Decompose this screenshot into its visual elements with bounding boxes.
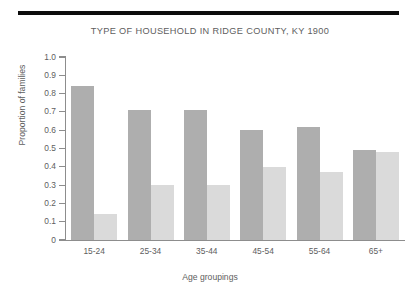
y-axis-tick: [59, 56, 65, 57]
y-axis-tick: [59, 203, 65, 204]
y-axis-tick: [59, 166, 65, 167]
bar-15-24-series-light: [94, 214, 117, 240]
y-axis-tick: [59, 148, 65, 149]
bar-35-44-series-dark: [184, 110, 207, 240]
chart-title: TYPE OF HOUSEHOLD IN RIDGE COUNTY, KY 19…: [0, 26, 420, 36]
bar-65plus-series-dark: [353, 150, 376, 240]
bar-55-64-series-dark: [297, 127, 320, 240]
y-axis-tick-label: 0.5: [0, 144, 56, 152]
y-axis-tick-label: 0.2: [0, 199, 56, 207]
y-axis-tick: [59, 93, 65, 94]
bar-25-34-series-light: [151, 185, 174, 240]
y-axis-tick-label: 0.9: [0, 71, 56, 79]
x-axis-line: [65, 240, 405, 241]
x-axis-tick-label: 45-54: [233, 246, 293, 256]
x-axis-tick-label: 25-34: [121, 246, 181, 256]
bar-25-34-series-dark: [128, 110, 151, 240]
y-axis-tick-label: 0.7: [0, 107, 56, 115]
y-axis-tick: [59, 239, 65, 240]
y-axis-tick-label: 0: [0, 236, 56, 244]
y-axis-tick: [59, 221, 65, 222]
y-axis-tick-label: 0.6: [0, 126, 56, 134]
x-axis-tick-label: 65+: [346, 246, 406, 256]
bar-35-44-series-light: [207, 185, 230, 240]
bar-55-64-series-light: [320, 172, 343, 240]
y-axis-tick-label: 1.0: [0, 53, 56, 61]
chart-figure: TYPE OF HOUSEHOLD IN RIDGE COUNTY, KY 19…: [0, 0, 420, 297]
y-axis-tick: [59, 75, 65, 76]
y-axis-tick-label: 0.3: [0, 181, 56, 189]
y-axis-tick: [59, 185, 65, 186]
x-axis-label: Age groupings: [0, 272, 420, 282]
x-axis-tick-label: 15-24: [64, 246, 124, 256]
bar-45-54-series-light: [263, 167, 286, 240]
bar-45-54-series-dark: [240, 130, 263, 240]
y-axis-tick: [59, 130, 65, 131]
y-axis-tick: [59, 111, 65, 112]
x-axis-tick-label: 55-64: [290, 246, 350, 256]
plot-area: [66, 57, 404, 240]
y-axis-tick-label: 0.4: [0, 162, 56, 170]
top-rule-divider: [18, 11, 399, 15]
y-axis-tick-label: 0.1: [0, 217, 56, 225]
x-axis-tick-label: 35-44: [177, 246, 237, 256]
y-axis-tick-label: 0.8: [0, 89, 56, 97]
bar-15-24-series-dark: [71, 86, 94, 240]
bar-65plus-series-light: [376, 152, 399, 240]
